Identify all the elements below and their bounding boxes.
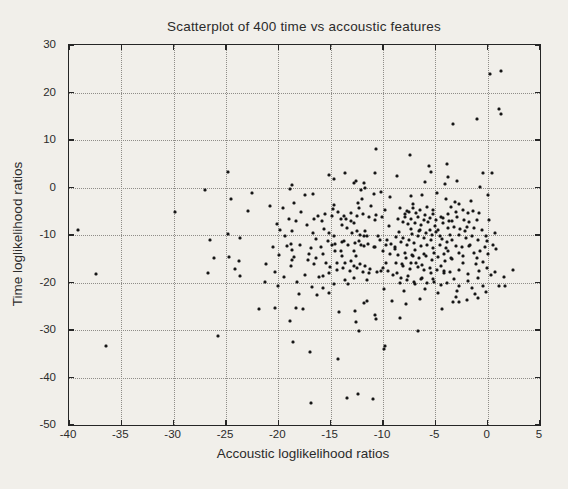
data-point (467, 221, 470, 224)
data-point (440, 238, 443, 241)
y-tick-mark (535, 92, 540, 94)
data-point (432, 208, 435, 211)
data-point (299, 243, 302, 246)
x-tick-mark (487, 420, 489, 425)
data-point (466, 272, 469, 275)
x-tick-mark (121, 420, 123, 425)
data-point (379, 269, 382, 272)
data-point (430, 238, 433, 241)
x-tick-label: -20 (269, 428, 286, 440)
data-point (348, 269, 351, 272)
data-point (213, 257, 216, 260)
data-point (443, 259, 446, 262)
data-point (478, 211, 481, 214)
data-point (312, 218, 315, 221)
data-point (450, 257, 453, 260)
horizontal-gridline (69, 283, 540, 284)
data-point (367, 243, 370, 246)
data-point (486, 193, 489, 196)
data-point (424, 232, 427, 235)
data-point (410, 194, 413, 197)
data-point (503, 276, 506, 279)
data-point (419, 245, 422, 248)
data-point (392, 273, 395, 276)
data-point (440, 307, 443, 310)
scatter-plot-figure: Scatterplot of 400 time vs accoustic fea… (0, 0, 568, 489)
data-point (332, 235, 335, 238)
data-point (456, 290, 459, 293)
data-point (413, 281, 416, 284)
data-point (436, 192, 439, 195)
data-point (466, 279, 469, 282)
x-tick-mark (382, 420, 384, 425)
data-point (355, 230, 358, 233)
data-point (442, 253, 445, 256)
data-point (418, 209, 421, 212)
data-point (321, 220, 324, 223)
data-point (77, 229, 80, 232)
y-tick-mark (69, 329, 74, 331)
data-point (363, 302, 366, 305)
data-point (238, 236, 241, 239)
data-point (453, 225, 456, 228)
data-point (447, 219, 450, 222)
data-point (441, 217, 444, 220)
data-point (318, 275, 321, 278)
data-point (500, 70, 503, 73)
data-point (354, 180, 357, 183)
data-point (477, 238, 480, 241)
data-point (209, 238, 212, 241)
data-point (401, 265, 404, 268)
data-point (307, 253, 310, 256)
data-point (352, 276, 355, 279)
data-point (403, 251, 406, 254)
data-point (487, 219, 490, 222)
data-point (364, 265, 367, 268)
data-point (485, 240, 488, 243)
data-point (384, 344, 387, 347)
data-point (379, 190, 382, 193)
data-point (444, 197, 447, 200)
data-point (476, 256, 479, 259)
data-point (465, 299, 468, 302)
data-point (438, 244, 441, 247)
y-tick-mark (69, 282, 74, 284)
data-point (290, 248, 293, 251)
data-point (491, 244, 494, 247)
data-point (476, 219, 479, 222)
data-point (398, 316, 401, 319)
data-point (394, 236, 397, 239)
data-point (432, 246, 435, 249)
data-point (489, 274, 492, 277)
data-point (385, 261, 388, 264)
y-tick-label: -10 (39, 228, 56, 240)
data-point (263, 281, 266, 284)
data-point (430, 271, 433, 274)
data-point (401, 237, 404, 240)
data-point (422, 218, 425, 221)
data-point (323, 228, 326, 231)
x-tick-label: 0 (483, 428, 489, 440)
y-tick-label: 10 (43, 133, 56, 145)
y-tick-mark (69, 377, 74, 379)
horizontal-gridline (69, 330, 540, 331)
data-point (446, 249, 449, 252)
data-point (455, 295, 458, 298)
data-point (340, 250, 343, 253)
data-point (343, 214, 346, 217)
data-point (383, 288, 386, 291)
y-tick-mark (69, 187, 74, 189)
data-point (344, 171, 347, 174)
data-point (407, 274, 410, 277)
x-tick-mark (173, 45, 175, 50)
data-point (445, 162, 448, 165)
x-tick-mark (225, 45, 227, 50)
plot-area (68, 44, 541, 426)
data-point (357, 206, 360, 209)
y-tick-label: -40 (39, 370, 56, 382)
data-point (227, 171, 230, 174)
data-point (345, 217, 348, 220)
data-point (277, 284, 280, 287)
horizontal-gridline (69, 378, 540, 379)
data-point (341, 223, 344, 226)
